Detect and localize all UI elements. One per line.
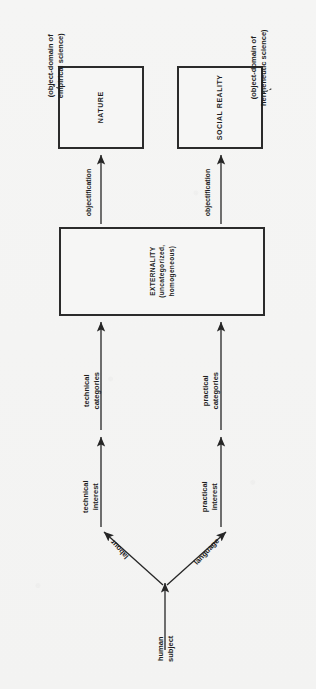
label-practical-interest-line2: interest — [210, 483, 219, 510]
annotation-hermeneutic-line2: hermeneutic science) — [259, 29, 268, 106]
label-technical-categories: technical categories — [82, 360, 102, 422]
label-human-subject-line1: human — [156, 636, 165, 661]
label-practical-categories-line2: categories — [211, 372, 220, 410]
annotation-hermeneutic-science: (object-domain of hermeneutic science) — [249, 20, 269, 116]
box-externality-line3: homogeneous) — [168, 246, 175, 297]
label-technical-interest-line1: technical — [81, 481, 90, 514]
label-technical-interest: technical interest — [81, 466, 101, 528]
box-externality-line1: EXTERNALITY — [149, 247, 156, 296]
annotation-empirical-line2: empirical science) — [56, 33, 65, 98]
annotation-empirical-science: (object-domain of empirical science) — [46, 18, 66, 114]
label-human-subject-line2: subject — [166, 636, 175, 662]
label-practical-interest-line1: practical — [200, 481, 209, 512]
label-technical-interest-line2: interest — [91, 483, 100, 510]
label-practical-interest: practical interest — [200, 466, 220, 528]
box-social-reality-label: SOCIAL REALITY — [216, 75, 225, 141]
label-technical-categories-line2: categories — [92, 372, 101, 410]
diagram-page: NATURE SOCIAL REALITY EXTERNALITY (uncat… — [0, 0, 316, 689]
annotation-hermeneutic-line1: (object-domain of — [249, 36, 258, 99]
box-externality: EXTERNALITY (uncategorized, homogeneous) — [59, 227, 265, 316]
label-labour: labour — [108, 538, 130, 561]
label-practical-categories-line1: practical — [201, 375, 210, 406]
box-externality-label: EXTERNALITY (uncategorized, homogeneous) — [148, 245, 176, 298]
annotation-empirical-line1: (object-domain of — [46, 34, 55, 97]
box-nature-label: NATURE — [97, 92, 106, 124]
box-nature: NATURE — [58, 66, 144, 149]
box-externality-line2: (uncategorized, — [158, 245, 165, 298]
label-practical-categories: practical categories — [201, 360, 221, 422]
label-language: language — [192, 536, 221, 566]
label-objectification-right: objectification — [203, 160, 212, 226]
label-objectification-left: objectification — [84, 160, 93, 226]
label-technical-categories-line1: technical — [82, 375, 91, 408]
label-human-subject: human subject — [156, 618, 176, 680]
